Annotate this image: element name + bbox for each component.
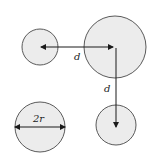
vertical-distance-label: d xyxy=(104,83,110,94)
circle-distance-diagram: d d 2r xyxy=(0,0,157,165)
horizontal-distance-label: d xyxy=(74,51,80,62)
diameter-label: 2r xyxy=(32,113,45,124)
